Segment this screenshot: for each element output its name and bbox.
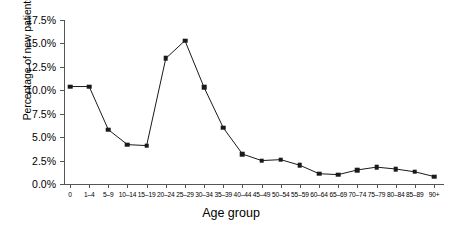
x-axis-tick bbox=[147, 184, 148, 188]
y-axis-tick-label: 7.5% bbox=[6, 109, 56, 119]
data-point-marker bbox=[163, 56, 168, 61]
x-axis-tick-label: 35–39 bbox=[214, 191, 232, 198]
data-point-marker bbox=[68, 84, 73, 89]
data-point-marker bbox=[317, 171, 322, 176]
x-axis-tick bbox=[300, 184, 301, 188]
x-axis-tick-label: 75–79 bbox=[368, 191, 386, 198]
x-axis-tick-label: 60–64 bbox=[310, 191, 328, 198]
x-axis-tick bbox=[127, 184, 128, 188]
data-point-marker bbox=[278, 157, 283, 162]
x-axis-line bbox=[64, 184, 444, 185]
x-axis-tick-label: 55–59 bbox=[291, 191, 309, 198]
y-axis-tick-label: 10.0% bbox=[6, 85, 56, 95]
y-axis-tick bbox=[60, 184, 64, 185]
data-point-marker bbox=[413, 170, 418, 175]
x-axis-tick bbox=[108, 184, 109, 188]
x-axis-tick bbox=[281, 184, 282, 188]
x-axis-tick-label: 40–44 bbox=[234, 191, 252, 198]
x-axis-tick-label: 20–24 bbox=[157, 191, 175, 198]
x-axis-tick bbox=[319, 184, 320, 188]
data-point-marker bbox=[298, 163, 303, 168]
y-axis-tick-label: 0.0% bbox=[6, 179, 56, 189]
x-axis-title: Age group bbox=[0, 206, 462, 220]
x-axis-tick bbox=[166, 184, 167, 188]
x-axis-tick-label: 45–49 bbox=[253, 191, 271, 198]
x-axis-tick-label: 50–54 bbox=[272, 191, 290, 198]
x-axis-tick-label: 0 bbox=[68, 191, 72, 198]
x-axis-tick bbox=[357, 184, 358, 188]
x-axis-tick-label: 25–29 bbox=[176, 191, 194, 198]
y-axis-tick-label: 17.5% bbox=[6, 15, 56, 25]
x-axis-tick-label: 85–89 bbox=[406, 191, 424, 198]
x-axis-tick bbox=[242, 184, 243, 188]
x-axis-tick-label: 70–74 bbox=[349, 191, 367, 198]
x-axis-tick bbox=[415, 184, 416, 188]
plot-area: 0.0%2.5%5.0%7.5%10.0%12.5%15.0%17.5% 01–… bbox=[64, 20, 444, 184]
data-point-marker bbox=[125, 142, 130, 147]
x-axis-tick bbox=[396, 184, 397, 188]
x-axis-tick bbox=[204, 184, 205, 188]
x-axis-tick bbox=[434, 184, 435, 188]
data-point-marker bbox=[221, 125, 226, 130]
x-axis-tick bbox=[223, 184, 224, 188]
chart-container: Percentage of new patients 0.0%2.5%5.0%7… bbox=[0, 0, 462, 232]
data-point-marker bbox=[87, 84, 92, 89]
x-axis-tick-label: 15–19 bbox=[138, 191, 156, 198]
y-axis-tick-label: 12.5% bbox=[6, 62, 56, 72]
data-point-marker bbox=[240, 152, 245, 157]
data-point-marker bbox=[432, 174, 437, 179]
x-axis-tick-label: 5–9 bbox=[103, 191, 114, 198]
x-axis-tick bbox=[377, 184, 378, 188]
x-axis-tick-label: 10–14 bbox=[119, 191, 137, 198]
x-axis-tick-label: 90+ bbox=[429, 191, 440, 198]
data-point-marker bbox=[259, 158, 264, 163]
x-axis-tick bbox=[262, 184, 263, 188]
x-axis-tick-label: 80–84 bbox=[387, 191, 405, 198]
data-point-marker bbox=[202, 85, 207, 90]
data-point-marker bbox=[106, 127, 111, 132]
data-point-marker bbox=[183, 38, 188, 43]
data-point-marker bbox=[355, 168, 360, 173]
x-axis-tick bbox=[89, 184, 90, 188]
data-point-marker bbox=[374, 165, 379, 170]
data-point-marker bbox=[393, 167, 398, 172]
y-axis-tick-label: 2.5% bbox=[6, 156, 56, 166]
y-axis-tick-label: 5.0% bbox=[6, 132, 56, 142]
data-point-marker bbox=[144, 143, 149, 148]
data-point-marker bbox=[336, 172, 341, 177]
x-axis-tick bbox=[185, 184, 186, 188]
x-axis-tick bbox=[338, 184, 339, 188]
y-axis-tick-label: 15.0% bbox=[6, 38, 56, 48]
x-axis-tick-label: 65–69 bbox=[329, 191, 347, 198]
x-axis-tick bbox=[70, 184, 71, 188]
x-axis-tick-label: 30–34 bbox=[195, 191, 213, 198]
data-line-series bbox=[64, 20, 444, 184]
x-axis-tick-label: 1–4 bbox=[84, 191, 95, 198]
